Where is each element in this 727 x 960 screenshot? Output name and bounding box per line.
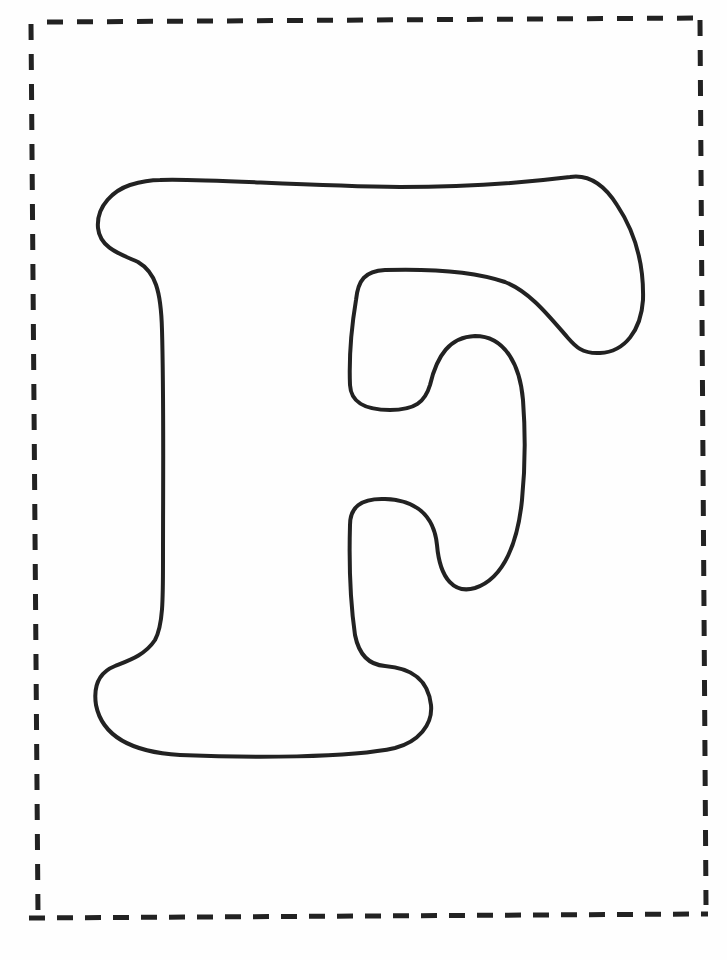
coloring-page: F xyxy=(0,0,727,960)
dashed-border xyxy=(29,18,708,918)
letter-f-outline xyxy=(95,177,643,757)
